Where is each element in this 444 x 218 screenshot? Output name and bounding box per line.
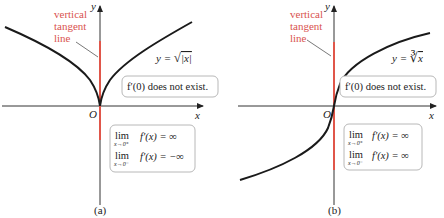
annotation-b-line2: tangent bbox=[290, 20, 322, 32]
origin-label-a: O bbox=[89, 108, 97, 120]
lim-expr-b-2: f′(x) = ∞ bbox=[372, 150, 409, 162]
annotation-a-line1: vertical bbox=[54, 8, 87, 20]
function-label-a: y = √|x| bbox=[155, 50, 192, 65]
derivative-note-b: f′(0) does not exist. bbox=[345, 81, 426, 93]
function-label-b: y = ∛x bbox=[391, 50, 423, 65]
panel-b: vertical tangent line y x O y = ∛x f′(0)… bbox=[238, 0, 436, 217]
lim-expr-b-1: f′(x) = ∞ bbox=[372, 130, 409, 142]
annotation-a-line3: line bbox=[54, 32, 71, 44]
x-axis-label-a: x bbox=[194, 109, 200, 121]
lim-b-1: lim bbox=[349, 129, 363, 140]
y-axis-label-b: y bbox=[324, 0, 330, 12]
annotation-pointer-a bbox=[76, 42, 98, 57]
lim-sub-a-1: x→0⁺ bbox=[113, 141, 129, 147]
lim-sub-a-2: x→0⁻ bbox=[113, 161, 129, 167]
lim-a-1: lim bbox=[115, 130, 129, 141]
caption-b: (b) bbox=[328, 204, 341, 217]
lim-sub-b-1: x→0⁺ bbox=[347, 140, 363, 146]
annotation-b-line3: line bbox=[290, 32, 307, 44]
annotation-b-line1: vertical bbox=[290, 8, 323, 20]
figure: vertical tangent line y x O y = √|x| f′(… bbox=[0, 0, 444, 218]
lim-expr-a-1: f′(x) = ∞ bbox=[140, 131, 177, 143]
panel-a: vertical tangent line y x O y = √|x| f′(… bbox=[2, 0, 218, 217]
y-axis-label-a: y bbox=[90, 0, 96, 12]
lim-sub-b-2: x→0⁻ bbox=[347, 160, 363, 166]
lim-a-2: lim bbox=[115, 150, 129, 161]
origin-label-b: O bbox=[323, 108, 331, 120]
lim-expr-a-2: f′(x) = −∞ bbox=[140, 151, 184, 163]
derivative-note-a: f′(0) does not exist. bbox=[127, 81, 208, 93]
annotation-a-line2: tangent bbox=[54, 20, 86, 32]
lim-b-2: lim bbox=[349, 149, 363, 160]
x-axis-label-b: x bbox=[428, 109, 434, 121]
caption-a: (a) bbox=[94, 204, 107, 217]
annotation-pointer-b bbox=[307, 40, 331, 56]
